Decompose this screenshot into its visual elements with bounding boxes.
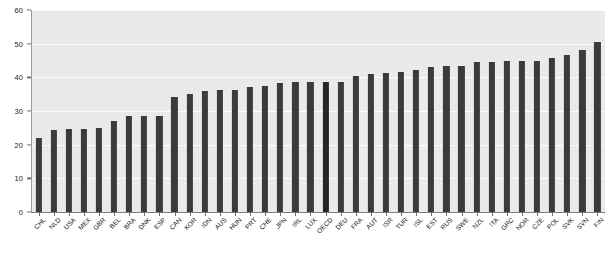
bar-GRC[interactable]: [504, 61, 510, 212]
bar-IRL[interactable]: [292, 82, 298, 212]
x-label-GRC: GRC: [499, 216, 515, 232]
x-label-CAN: CAN: [167, 216, 182, 231]
bar-slot-GRC[interactable]: [499, 10, 514, 212]
x-label-EST: EST: [425, 216, 439, 230]
bar-TUR[interactable]: [398, 72, 404, 212]
bar-ISL[interactable]: [413, 70, 419, 212]
bar-RUS[interactable]: [443, 66, 449, 212]
bar-slot-BEL[interactable]: [107, 10, 122, 212]
bar-slot-POL[interactable]: [545, 10, 560, 212]
bar-slot-LUX[interactable]: [303, 10, 318, 212]
bar-NLD[interactable]: [51, 130, 57, 212]
bar-slot-ESP[interactable]: [152, 10, 167, 212]
bar-slot-CAN[interactable]: [167, 10, 182, 212]
bar-slot-CHL[interactable]: [31, 10, 46, 212]
bar-NZL[interactable]: [474, 62, 480, 212]
bar-BEL[interactable]: [111, 121, 117, 212]
bar-slot-MEX[interactable]: [76, 10, 91, 212]
bar-slot-FRA[interactable]: [348, 10, 363, 212]
bar-DNK[interactable]: [141, 116, 147, 212]
bar-IDN[interactable]: [202, 91, 208, 212]
x-label-CHL: CHL: [32, 216, 46, 230]
bar-CZE[interactable]: [534, 61, 540, 213]
x-label-CHE: CHE: [258, 216, 273, 231]
bar-AUT[interactable]: [368, 74, 374, 212]
bar-slot-HUN[interactable]: [227, 10, 242, 212]
bar-slot-IDN[interactable]: [197, 10, 212, 212]
bar-OECD[interactable]: [322, 82, 328, 212]
bar-slot-ISL[interactable]: [409, 10, 424, 212]
bar-slot-TUR[interactable]: [394, 10, 409, 212]
bar-slot-CHE[interactable]: [258, 10, 273, 212]
bar-DEU[interactable]: [338, 82, 344, 212]
bar-slot-OECD[interactable]: [318, 10, 333, 212]
bar-slot-JPN[interactable]: [273, 10, 288, 212]
bar-slot-NZL[interactable]: [469, 10, 484, 212]
bar-PRT[interactable]: [247, 87, 253, 212]
bar-NOR[interactable]: [519, 61, 525, 212]
bar-slot-AUS[interactable]: [212, 10, 227, 212]
x-label-MEX: MEX: [77, 216, 92, 231]
bar-slot-SVK[interactable]: [560, 10, 575, 212]
bar-CHL[interactable]: [35, 138, 41, 212]
bar-slot-SWE[interactable]: [454, 10, 469, 212]
bar-slot-IRL[interactable]: [288, 10, 303, 212]
bar-POL[interactable]: [549, 58, 555, 212]
bar-GBR[interactable]: [96, 128, 102, 212]
bar-slot-KOR[interactable]: [182, 10, 197, 212]
bar-slot-RUS[interactable]: [439, 10, 454, 212]
x-label-NZL: NZL: [471, 216, 485, 230]
bar-ESP[interactable]: [156, 116, 162, 212]
x-label-TUR: TUR: [394, 216, 409, 231]
x-label-OECD: OECD: [315, 216, 334, 235]
y-tick-label-0: 0: [19, 208, 23, 217]
bar-slot-PRT[interactable]: [242, 10, 257, 212]
bar-slot-NOR[interactable]: [514, 10, 529, 212]
x-label-SVK: SVK: [561, 216, 575, 230]
bar-slot-NLD[interactable]: [46, 10, 61, 212]
bar-LUX[interactable]: [307, 82, 313, 212]
bar-chart-figure: 0102030405060 CHLNLDUSAMEXGBRBELBRADNKES…: [0, 0, 613, 254]
x-label-GBR: GBR: [92, 216, 107, 231]
bar-HUN[interactable]: [232, 90, 238, 212]
bar-ITA[interactable]: [489, 62, 495, 212]
x-label-RUS: RUS: [439, 216, 454, 231]
x-label-POL: POL: [546, 216, 560, 230]
bar-USA[interactable]: [66, 129, 72, 212]
bar-FRA[interactable]: [353, 76, 359, 212]
bar-slot-ITA[interactable]: [484, 10, 499, 212]
bar-SVK[interactable]: [564, 55, 570, 212]
bar-EST[interactable]: [428, 67, 434, 212]
bar-slot-DNK[interactable]: [137, 10, 152, 212]
bar-AUS[interactable]: [217, 90, 223, 212]
value-axis: 0102030405060: [0, 0, 31, 254]
x-label-KOR: KOR: [182, 216, 197, 231]
bar-CHE[interactable]: [262, 86, 268, 212]
bar-slot-GBR[interactable]: [91, 10, 106, 212]
x-label-BEL: BEL: [108, 216, 122, 230]
bar-FIN[interactable]: [594, 42, 600, 212]
bar-slot-EST[interactable]: [424, 10, 439, 212]
bar-SWE[interactable]: [458, 66, 464, 212]
bar-slot-DEU[interactable]: [333, 10, 348, 212]
bar-SVN[interactable]: [579, 50, 585, 212]
bar-slot-CZE[interactable]: [529, 10, 544, 212]
bar-slot-AUT[interactable]: [363, 10, 378, 212]
bar-slot-BRA[interactable]: [122, 10, 137, 212]
x-label-AUS: AUS: [213, 216, 228, 231]
bar-ISR[interactable]: [383, 73, 389, 212]
y-tick-label-10: 10: [15, 174, 23, 183]
y-tick-label-30: 30: [15, 107, 23, 116]
bar-MEX[interactable]: [81, 129, 87, 212]
bar-BRA[interactable]: [126, 116, 132, 212]
bar-slot-SVN[interactable]: [575, 10, 590, 212]
bar-KOR[interactable]: [187, 94, 193, 213]
x-label-FRA: FRA: [349, 216, 363, 230]
x-label-PRT: PRT: [244, 216, 258, 230]
bar-CAN[interactable]: [171, 97, 177, 212]
bar-slot-ISR[interactable]: [378, 10, 393, 212]
bar-slot-FIN[interactable]: [590, 10, 605, 212]
bar-slot-USA[interactable]: [61, 10, 76, 212]
bar-JPN[interactable]: [277, 83, 283, 212]
y-tick-label-50: 50: [15, 39, 23, 48]
